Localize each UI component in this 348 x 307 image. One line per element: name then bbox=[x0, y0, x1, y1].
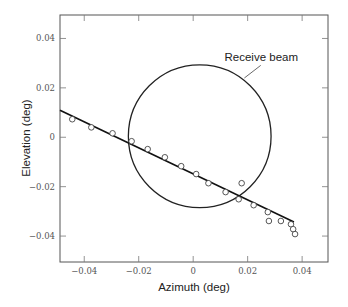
x-axis-label: Azimuth (deg) bbox=[158, 281, 230, 293]
data-points bbox=[69, 116, 297, 236]
y-tick-label: −0.04 bbox=[29, 231, 55, 241]
x-tick-label: −0.02 bbox=[126, 266, 152, 276]
data-point bbox=[69, 116, 75, 122]
x-tick-label: 0.02 bbox=[238, 266, 257, 276]
data-point bbox=[265, 209, 271, 215]
data-point bbox=[251, 202, 257, 208]
data-point bbox=[206, 180, 212, 186]
receive-beam-leader bbox=[244, 65, 260, 78]
y-tick-label: 0 bbox=[50, 132, 55, 142]
receive-beam-circle bbox=[128, 65, 271, 208]
data-point bbox=[162, 154, 168, 160]
data-point bbox=[236, 196, 242, 202]
chart: −0.04−0.0200.020.04 −0.04−0.0200.020.04 … bbox=[0, 0, 348, 307]
y-axis-ticks: −0.04−0.0200.020.04 bbox=[29, 33, 328, 241]
receive-beam-label: Receive beam bbox=[225, 51, 299, 63]
data-point bbox=[129, 138, 135, 144]
data-point bbox=[89, 125, 95, 131]
data-point bbox=[266, 218, 272, 224]
x-tick-label: 0 bbox=[190, 266, 195, 276]
y-tick-label: 0.02 bbox=[36, 83, 55, 93]
data-point bbox=[292, 231, 298, 237]
y-tick-label: −0.02 bbox=[29, 182, 55, 192]
y-axis-label: Elevation (deg) bbox=[20, 99, 32, 177]
fit-lines bbox=[60, 110, 294, 222]
data-point bbox=[193, 171, 199, 177]
data-point bbox=[110, 131, 116, 137]
y-tick-label: 0.04 bbox=[36, 33, 55, 43]
fit-line bbox=[60, 110, 294, 222]
x-tick-label: −0.04 bbox=[71, 266, 97, 276]
data-point bbox=[178, 163, 184, 169]
data-point bbox=[239, 180, 245, 186]
data-point bbox=[223, 189, 229, 195]
x-tick-label: 0.04 bbox=[293, 266, 312, 276]
data-point bbox=[278, 218, 284, 224]
data-point bbox=[145, 146, 151, 152]
